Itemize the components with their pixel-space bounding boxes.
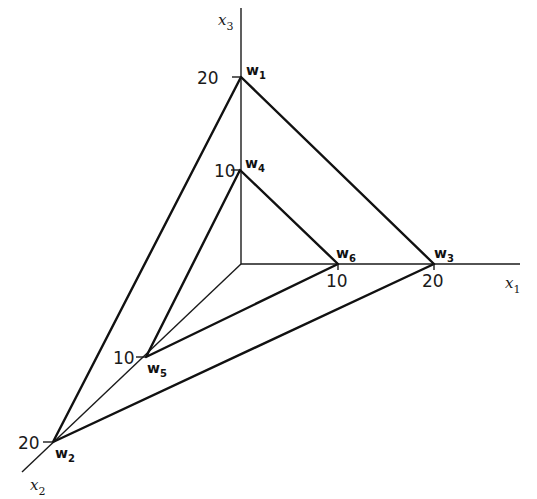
triangle-outer [53, 77, 434, 442]
tick-label-x2-10: 10 [113, 348, 135, 368]
axis-label-x1: x1 [505, 274, 520, 296]
tick-label-x3-10: 10 [214, 161, 236, 181]
simplex-diagram: x1x2x3201010201020w1w2w3w4w5w6 [0, 0, 537, 499]
axis-label-x3: x3 [218, 11, 233, 33]
tick-label-x1-20: 20 [422, 271, 444, 291]
point-label-w4: w4 [245, 155, 265, 174]
point-label-w2: w2 [55, 445, 75, 464]
point-label-w3: w3 [434, 245, 454, 264]
point-label-w5: w5 [147, 360, 167, 379]
tick-label-x3-20: 20 [197, 68, 219, 88]
axis-label-x2: x2 [30, 476, 45, 498]
point-label-w1: w1 [246, 62, 266, 81]
point-label-w6: w6 [336, 245, 356, 264]
tick-label-x1-10: 10 [326, 271, 348, 291]
tick-label-x2-20: 20 [18, 433, 40, 453]
diagram-canvas: x1x2x3201010201020w1w2w3w4w5w6 [0, 0, 537, 499]
